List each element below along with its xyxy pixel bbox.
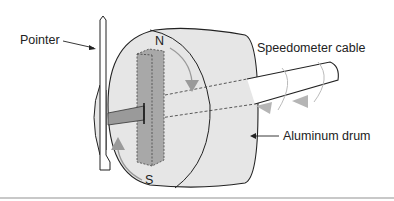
south-pole-label: S <box>145 173 153 187</box>
north-pole-label: N <box>155 34 164 48</box>
cable-rotation-arrow-2 <box>292 95 308 108</box>
pointer-leader-arrowhead <box>89 45 96 50</box>
speedometer-cable <box>247 62 338 104</box>
aluminum-drum <box>108 28 258 187</box>
speedometer-diagram <box>0 0 394 201</box>
cable-label: Speedometer cable <box>257 41 365 55</box>
pointer-label: Pointer <box>20 33 60 47</box>
drum-label: Aluminum drum <box>283 129 371 143</box>
